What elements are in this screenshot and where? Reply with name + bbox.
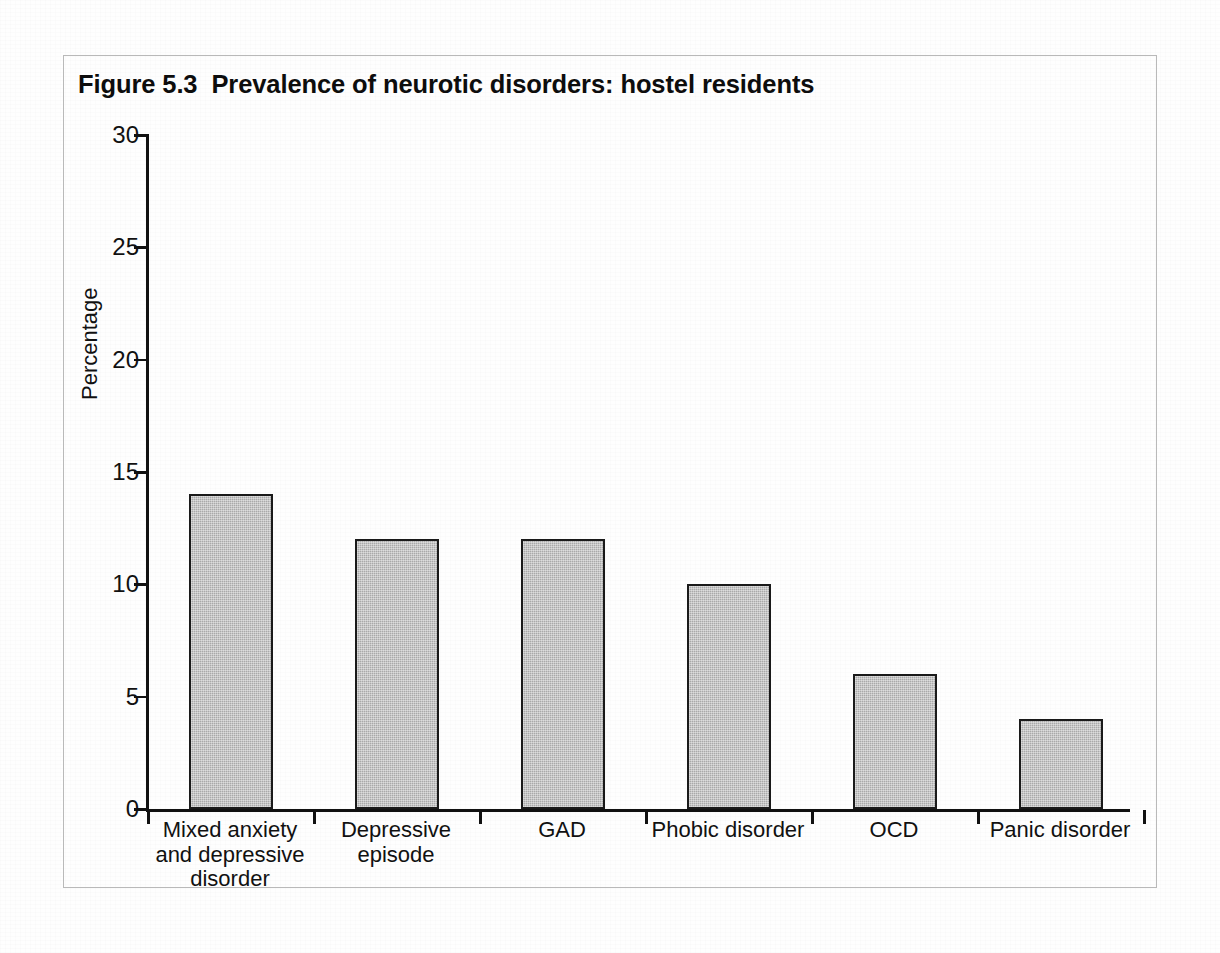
bar-phobic-disorder bbox=[687, 584, 771, 809]
x-tick-label: OCD bbox=[801, 818, 987, 843]
bar-panic-disorder bbox=[1019, 719, 1103, 809]
y-tick-label: 15 bbox=[112, 460, 139, 484]
figure-page: Figure 5.3 Prevalence of neurotic disord… bbox=[0, 0, 1220, 953]
y-axis-title: Percentage bbox=[79, 287, 101, 400]
y-tick-label: 10 bbox=[112, 572, 139, 596]
x-tick-label: Mixed anxiety and depressive disorder bbox=[137, 818, 323, 892]
y-tick-label: 25 bbox=[112, 235, 139, 259]
bar-gad bbox=[521, 539, 605, 809]
page-title: Figure 5.3 Prevalence of neurotic disord… bbox=[78, 70, 814, 99]
plot-area: 051015202530 bbox=[147, 135, 1130, 809]
bar-mixed-anxiety-and-depressive-disorder bbox=[189, 494, 273, 809]
x-tick-label: Depressive episode bbox=[303, 818, 489, 867]
x-tick-label: Phobic disorder bbox=[635, 818, 821, 843]
x-tick-label: GAD bbox=[469, 818, 655, 843]
y-tick-label: 30 bbox=[112, 123, 139, 147]
y-tick-label: 20 bbox=[112, 348, 139, 372]
bar-ocd bbox=[853, 674, 937, 809]
x-tick-label: Panic disorder bbox=[967, 818, 1153, 843]
bar-depressive-episode bbox=[355, 539, 439, 809]
y-tick-label: 5 bbox=[126, 685, 139, 709]
x-axis-line bbox=[146, 809, 1130, 812]
